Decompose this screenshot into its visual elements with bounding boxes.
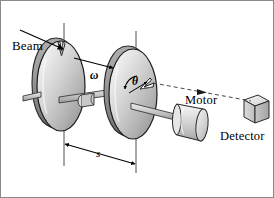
detector-label: Detector [220,130,265,143]
beam-label: Beam [12,39,43,52]
theta-label: θ [132,76,138,88]
separation-label: s [96,148,100,159]
omega-label: ω [90,70,98,82]
motor-label: Motor [185,94,217,107]
diagram-canvas [1,1,274,198]
motor-cylinder [172,104,209,142]
detector-cube [244,95,269,123]
figure-frame: Beam ω θ Motor Detector s [0,0,274,198]
